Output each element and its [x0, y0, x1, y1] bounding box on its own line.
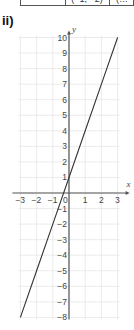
x-tick-label: −1: [48, 195, 58, 205]
x-tick-label: −3: [15, 195, 25, 205]
y-axis-label: y: [71, 24, 76, 34]
x-axis-arrow-icon: [126, 191, 130, 195]
y-tick-label: 10: [58, 33, 68, 43]
x-tick-label: 1: [83, 195, 88, 205]
y-tick-label: −2: [57, 219, 67, 229]
y-tick-label: −8: [57, 312, 67, 322]
y-tick-label: 1: [62, 172, 67, 182]
y-axis-arrow-icon: [67, 31, 71, 35]
x-tick-label: 2: [99, 195, 104, 205]
y-tick-label: 2: [62, 157, 67, 167]
y-tick-label: −4: [57, 250, 67, 260]
y-tick-label: −3: [57, 235, 67, 245]
x-axis-label: x: [126, 179, 131, 189]
line-graph: xy−3−2−1012310987654321−1−2−3−4−5−6−7−8: [0, 0, 134, 330]
y-tick-label: 5: [62, 110, 67, 120]
y-tick-label: −6: [57, 281, 67, 291]
y-tick-label: 9: [62, 48, 67, 58]
y-tick-label: −5: [57, 266, 67, 276]
y-tick-label: 6: [62, 95, 67, 105]
x-tick-label: 3: [115, 195, 120, 205]
y-tick-label: 8: [62, 64, 67, 74]
x-tick-label: −2: [32, 195, 42, 205]
y-tick-label: 4: [62, 126, 67, 136]
y-tick-label: 7: [62, 79, 67, 89]
y-tick-label: 3: [62, 141, 67, 151]
y-tick-label: −7: [57, 297, 67, 307]
y-tick-label: −1: [57, 204, 67, 214]
